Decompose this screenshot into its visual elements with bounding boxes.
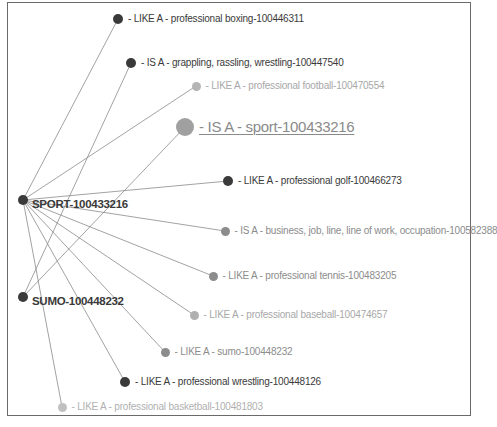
edge-sport-wrestling	[23, 200, 125, 382]
graph-node-business[interactable]	[221, 227, 230, 236]
graph-node-baseball[interactable]	[190, 311, 199, 320]
node-label-sumo[interactable]: SUMO-100448232	[32, 294, 124, 308]
node-label-tennis[interactable]: - LIKE A - professional tennis-100483205	[223, 270, 397, 282]
graph-node-golf[interactable]	[223, 176, 233, 186]
edge-sport-boxing	[23, 19, 118, 200]
graph-node-basketball[interactable]	[58, 403, 67, 412]
node-label-golf[interactable]: - LIKE A - professional golf-100466273	[238, 175, 402, 187]
graph-node-wrestling[interactable]	[120, 377, 130, 387]
node-label-sumo-like[interactable]: - LIKE A - sumo-100448232	[175, 346, 293, 358]
node-label-wrestling[interactable]: - LIKE A - professional wrestling-100448…	[135, 376, 321, 388]
graph-node-boxing[interactable]	[113, 14, 123, 24]
node-label-business[interactable]: - IS A - business, job, line, line of wo…	[235, 225, 497, 237]
node-label-grappling[interactable]: - IS A - grappling, rassling, wrestling-…	[141, 57, 344, 69]
node-label-boxing[interactable]: - LIKE A - professional boxing-100446311	[128, 13, 304, 25]
graph-node-football[interactable]	[192, 82, 201, 91]
graph-node-grappling[interactable]	[126, 58, 136, 68]
node-label-basketball[interactable]: - LIKE A - professional basketball-10048…	[72, 401, 263, 413]
node-label-sport[interactable]: SPORT-100433216	[32, 197, 128, 211]
graph-node-sumo[interactable]	[18, 292, 28, 302]
node-label-baseball[interactable]: - LIKE A - professional baseball-1004746…	[204, 309, 388, 321]
graph-node-sport-isa[interactable]	[176, 118, 194, 136]
node-label-sport-isa[interactable]: - IS A - sport-100433216	[199, 118, 354, 136]
edge-sumo-sport-isa	[23, 127, 185, 297]
node-label-football[interactable]: - LIKE A - professional football-1004705…	[206, 80, 385, 92]
graph-node-sumo-like[interactable]	[161, 348, 170, 357]
edge-sport-tennis	[23, 200, 213, 276]
graph-node-tennis[interactable]	[209, 272, 218, 281]
graph-node-sport[interactable]	[18, 195, 28, 205]
